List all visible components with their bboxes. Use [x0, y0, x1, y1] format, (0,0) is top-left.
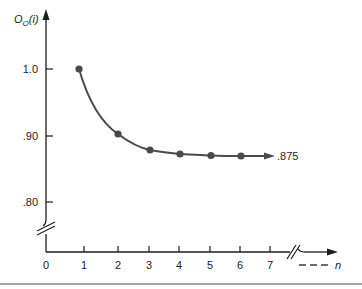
x-axis-arrow-icon — [327, 249, 338, 256]
y-tick-label: .80 — [23, 196, 38, 208]
trend-curve — [79, 69, 266, 156]
y-axis-arrow-icon — [43, 9, 50, 20]
y-tick-label: .90 — [23, 130, 38, 142]
data-point — [207, 152, 214, 159]
x-axis-label: n — [335, 259, 341, 271]
x-tick-label: 4 — [176, 259, 182, 271]
asymptote-label: .875 — [277, 150, 298, 162]
x-tick-label: 1 — [81, 259, 87, 271]
data-point — [75, 65, 82, 72]
y-axis: 1.0 .90 .80 OO(i) — [14, 9, 55, 252]
chart: 1.0 .90 .80 OO(i) 0 1 2 3 4 5 6 7 — [0, 0, 362, 289]
data-series: .875 — [75, 65, 298, 162]
x-tick-label: 2 — [115, 259, 121, 271]
data-point — [237, 152, 244, 159]
data-point — [176, 150, 183, 157]
data-point — [146, 146, 153, 153]
y-axis-break-icon — [37, 222, 55, 231]
x-tick-label: 0 — [43, 259, 49, 271]
asymptote-arrow-icon — [264, 153, 275, 160]
x-tick-label: 7 — [267, 259, 273, 271]
x-axis: 0 1 2 3 4 5 6 7 n — [43, 245, 341, 271]
x-tick-label: 6 — [237, 259, 243, 271]
x-tick-label: 5 — [207, 259, 213, 271]
x-tick-label: 3 — [146, 259, 152, 271]
data-point — [114, 130, 121, 137]
y-tick-label: 1.0 — [23, 63, 38, 75]
y-axis-label: OO(i) — [14, 13, 39, 28]
